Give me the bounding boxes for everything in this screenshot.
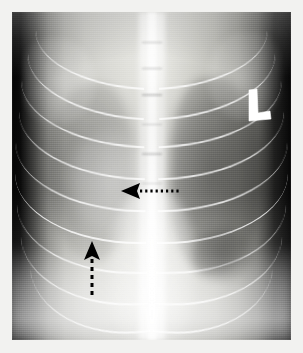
horizontal-dotted-arrow-icon <box>120 180 182 202</box>
left-side-marker-icon <box>246 88 272 122</box>
vertical-dashed-arrow-icon <box>80 240 104 300</box>
plate-edge <box>12 12 291 340</box>
radiograph-image <box>12 12 291 340</box>
screenshot-root <box>0 0 303 353</box>
